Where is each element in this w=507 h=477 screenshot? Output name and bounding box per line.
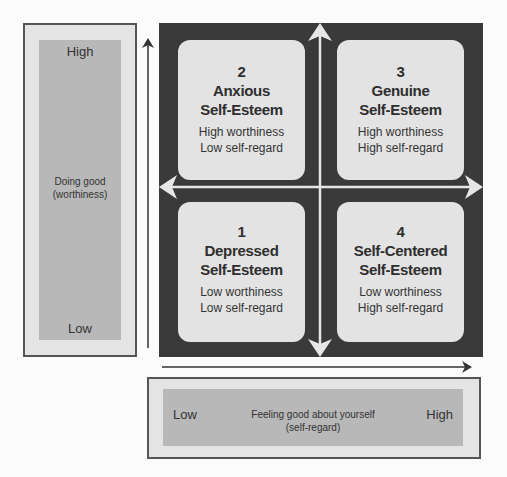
worthiness-axis-label: Doing good (worthiness) <box>39 175 121 201</box>
self-regard-axis-label: Feeling good about yourself (self-regard… <box>223 408 403 434</box>
self-regard-axis-bar: Low Feeling good about yourself (self-re… <box>163 389 463 446</box>
self-regard-high-label: High <box>426 407 453 422</box>
self-regard-axis-label-line1: Feeling good about yourself <box>223 408 403 421</box>
crosshair-arrows-icon <box>159 23 483 357</box>
self-regard-low-label: Low <box>173 407 197 422</box>
worthiness-axis-label-line1: Doing good <box>39 175 121 188</box>
arrow-right-icon <box>162 361 472 373</box>
worthiness-axis-bar: High Doing good (worthiness) Low <box>39 40 121 340</box>
worthiness-low-label: Low <box>39 321 121 336</box>
worthiness-high-label: High <box>39 44 121 59</box>
self-esteem-matrix: 2 Anxious Self-Esteem High worthiness Lo… <box>159 23 483 357</box>
self-regard-axis-label-line2: (self-regard) <box>223 421 403 434</box>
worthiness-axis-label-line2: (worthiness) <box>39 188 121 201</box>
arrow-up-icon <box>142 38 154 348</box>
worthiness-axis-panel: High Doing good (worthiness) Low <box>23 23 137 357</box>
self-regard-axis-panel: Low Feeling good about yourself (self-re… <box>147 377 481 459</box>
